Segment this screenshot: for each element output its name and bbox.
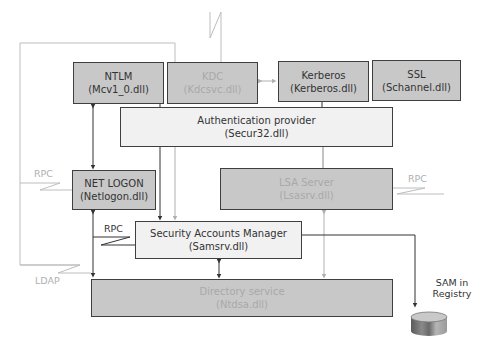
lsa-server-dll: (Lsasrv.dll) [279, 189, 333, 202]
kdc-dll: (Kdcsvc.dll) [184, 83, 242, 96]
kerberos-dll: (Kerberos.dll) [290, 82, 357, 95]
sam-registry-label: SAM in Registry [428, 277, 476, 299]
ssl-name: SSL [407, 68, 425, 81]
rpc-sam-lightning [93, 237, 135, 245]
auth-provider-dll: (Secur32.dll) [224, 127, 288, 140]
ssl-dll: (Schannel.dll) [382, 81, 451, 94]
auth-provider-box: Authentication provider (Secur32.dll) [120, 107, 393, 147]
rpc-right-label: RPC [408, 173, 427, 184]
rpc-sam-label: RPC [104, 223, 123, 234]
sam-dll: (Samsrv.dll) [189, 240, 249, 253]
sam-name: Security Accounts Manager [150, 227, 287, 240]
netlogon-dll: (Netlogon.dll) [80, 190, 148, 203]
kerberos-box: Kerberos (Kerberos.dll) [278, 61, 369, 102]
ntlm-box: NTLM (Mcv1_0.dll) [73, 62, 164, 104]
rpc-left-label: RPC [34, 168, 53, 179]
lsa-server-name: LSA Server [279, 176, 334, 189]
ssl-box: SSL (Schannel.dll) [372, 60, 461, 101]
sam-registry-line2: Registry [428, 288, 476, 299]
ntlm-dll: (Mcv1_0.dll) [88, 83, 149, 96]
rpc-lsa-lightning [393, 188, 444, 194]
rpc-netlogon-lightning [20, 183, 72, 190]
netlogon-name: NET LOGON [84, 177, 143, 190]
sam-box: Security Accounts Manager (Samsrv.dll) [135, 221, 302, 259]
lsa-server-box: LSA Server (Lsasrv.dll) [220, 168, 393, 210]
directory-service-box: Directory service (Ntdsa.dll) [91, 279, 393, 317]
ldap-lightning [20, 265, 91, 273]
directory-service-name: Directory service [199, 285, 284, 298]
kdc-network-zig [210, 12, 221, 62]
kdc-name: KDC [202, 70, 223, 83]
directory-service-dll: (Ntdsa.dll) [216, 298, 268, 311]
sam-registry-line1: SAM in [428, 277, 476, 288]
kdc-box: KDC (Kdcsvc.dll) [167, 62, 258, 104]
kerberos-name: Kerberos [301, 69, 345, 82]
database-cylinder-icon [409, 310, 449, 338]
auth-provider-name: Authentication provider [197, 114, 315, 127]
netlogon-box: NET LOGON (Netlogon.dll) [72, 170, 156, 210]
ntlm-name: NTLM [105, 70, 133, 83]
ldap-label: LDAP [35, 275, 60, 286]
